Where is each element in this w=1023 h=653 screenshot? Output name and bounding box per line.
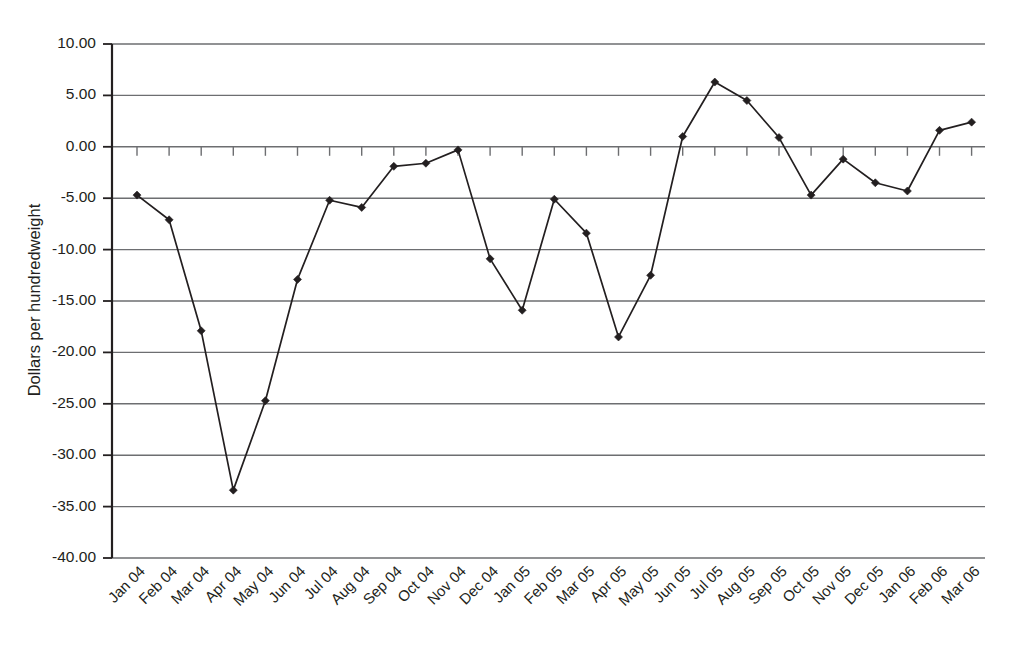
y-tick-label: -35.00	[52, 497, 96, 514]
y-tick-labels-group: 10.005.000.00-5.00-10.00-15.00-20.00-25.…	[52, 34, 96, 565]
data-point-marker	[422, 159, 430, 167]
line-chart: 10.005.000.00-5.00-10.00-15.00-20.00-25.…	[0, 0, 1023, 653]
chart-figure: 10.005.000.00-5.00-10.00-15.00-20.00-25.…	[0, 0, 1023, 653]
data-point-marker	[968, 118, 976, 126]
x-tick-label: Jun 04	[265, 562, 309, 606]
data-series-group	[137, 82, 972, 490]
data-point-marker	[326, 196, 334, 204]
y-tick-label: 5.00	[66, 85, 97, 102]
y-tick-label: -20.00	[52, 342, 96, 359]
data-point-marker	[679, 133, 687, 141]
data-point-marker	[294, 275, 302, 283]
data-markers-group	[133, 78, 976, 494]
data-point-marker	[518, 306, 526, 314]
y-tick-marks-group	[103, 44, 112, 558]
data-point-marker	[615, 333, 623, 341]
data-point-marker	[229, 486, 237, 494]
y-tick-label: -30.00	[52, 445, 96, 462]
y-tick-label: -25.00	[52, 394, 96, 411]
x-tick-label: Jun 05	[650, 562, 694, 606]
data-point-marker	[486, 255, 494, 263]
y-tick-label: -5.00	[61, 188, 97, 205]
y-tick-label: -15.00	[52, 291, 96, 308]
data-point-marker	[711, 78, 719, 86]
y-tick-label: -40.00	[52, 548, 96, 565]
x-tick-labels-group: Jan 04Feb 04Mar 04Apr 04May 04Jun 04Jul …	[104, 562, 982, 609]
y-tick-label: -10.00	[52, 240, 96, 257]
gridlines-group	[112, 44, 985, 558]
y-tick-label: 0.00	[66, 137, 97, 154]
series-line	[137, 82, 972, 490]
data-point-marker	[197, 327, 205, 335]
data-point-marker	[903, 187, 911, 195]
data-point-marker	[647, 271, 655, 279]
y-axis-title: Dollars per hundredweight	[25, 203, 43, 396]
y-tick-label: 10.00	[57, 34, 96, 51]
data-point-marker	[936, 126, 944, 134]
x-tick-marks-group	[137, 147, 972, 156]
